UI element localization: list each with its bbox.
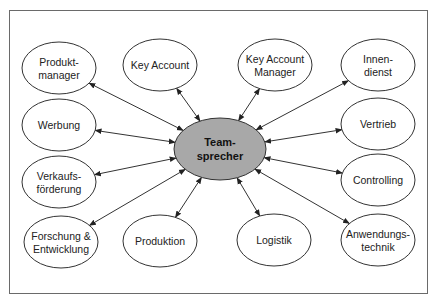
node-produktmanager: Produkt-manager: [22, 42, 96, 94]
node-label: förderung: [37, 183, 82, 195]
node-label: Logistik: [256, 234, 292, 246]
arrow-vertrieb: [265, 130, 342, 142]
center-node: Team-sprecher: [174, 118, 266, 180]
node-controlling: Controlling: [341, 154, 415, 206]
node-innendienst: Innen-dienst: [341, 39, 415, 91]
node-label: technik: [361, 241, 395, 253]
arrow-produktion: [175, 177, 201, 217]
ellipse-shape: [174, 118, 266, 180]
node-label: Produktion: [135, 235, 185, 247]
node-label: Werbung: [38, 119, 81, 131]
node-logistik: Logistik: [237, 214, 311, 266]
arrow-verkaufsfoerderung: [95, 158, 176, 175]
node-key-account-manager: Key AccountManager: [238, 39, 312, 91]
node-label: Vertrieb: [360, 118, 396, 130]
node-label: Forschung &: [31, 230, 91, 242]
node-forschung-entwicklung: Forschung &Entwicklung: [24, 216, 98, 268]
node-label: dienst: [364, 66, 392, 78]
node-label: Key Account: [131, 59, 189, 71]
arrow-controlling: [264, 158, 342, 173]
node-label: Controlling: [353, 174, 403, 186]
team-network-diagram: Produkt-managerKey AccountKey AccountMan…: [0, 0, 437, 302]
node-vertrieb: Vertrieb: [341, 98, 415, 150]
node-label: Produkt-: [39, 56, 79, 68]
arrow-werbung: [95, 130, 175, 142]
node-anwendungstechnik: Anwendungs-technik: [341, 214, 415, 266]
node-label: Team-: [204, 136, 236, 148]
node-label: sprecher: [197, 150, 244, 162]
arrow-key-account: [177, 88, 200, 121]
node-label: Manager: [254, 66, 296, 78]
node-label: Key Account: [246, 53, 304, 65]
node-produktion: Produktion: [123, 215, 197, 267]
node-label: Entwicklung: [33, 243, 89, 255]
node-key-account: Key Account: [123, 39, 197, 91]
arrow-logistik: [237, 178, 260, 216]
node-teamsprecher: Team-sprecher: [174, 118, 266, 180]
node-werbung: Werbung: [22, 99, 96, 151]
arrow-key-account-manager: [239, 89, 260, 121]
node-label: Verkaufs-: [37, 170, 82, 182]
node-label: manager: [38, 69, 80, 81]
node-label: Anwendungs-: [346, 228, 411, 240]
node-label: Innen-: [363, 53, 393, 65]
node-verkaufsfoerderung: Verkaufs-förderung: [22, 156, 96, 208]
